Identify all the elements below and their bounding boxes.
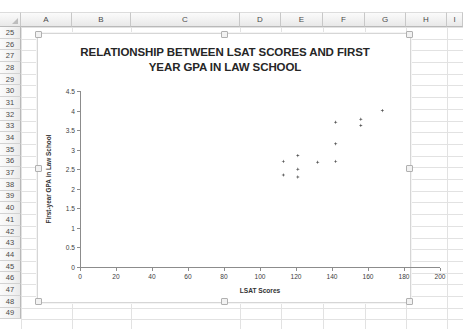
row-header-45[interactable]: 45 xyxy=(0,261,21,273)
row-header-28[interactable]: 28 xyxy=(0,62,21,74)
row-header-42[interactable]: 42 xyxy=(0,226,21,238)
y-tick-label: 0.5 xyxy=(66,244,75,251)
y-tick-label: 3.5 xyxy=(66,127,75,134)
y-tick xyxy=(77,130,80,131)
column-header-e[interactable]: E xyxy=(281,12,323,27)
chart-resize-handle-ne[interactable] xyxy=(406,31,413,38)
column-header-b[interactable]: B xyxy=(72,12,131,27)
y-tick xyxy=(77,189,80,190)
y-tick-label: 4 xyxy=(71,107,75,114)
row-header-29[interactable]: 29 xyxy=(0,74,21,86)
scatter-point[interactable] xyxy=(334,120,338,124)
row-header-46[interactable]: 46 xyxy=(0,272,21,284)
chart-title-line-1: RELATIONSHIP BETWEEN LSAT SCORES AND FIR… xyxy=(64,45,386,60)
row-header-49[interactable]: 49 xyxy=(0,308,21,320)
column-header-i[interactable]: I xyxy=(447,12,463,27)
y-axis-line xyxy=(80,91,81,268)
row-header-25[interactable]: 25 xyxy=(0,27,21,39)
column-header-g[interactable]: G xyxy=(365,12,406,27)
y-tick-label: 4.5 xyxy=(66,88,75,95)
row-header-37[interactable]: 37 xyxy=(0,167,21,179)
row-header-34[interactable]: 34 xyxy=(0,132,21,144)
x-tick-label: 40 xyxy=(148,273,155,280)
y-tick xyxy=(77,228,80,229)
row-header-40[interactable]: 40 xyxy=(0,202,21,214)
chart-plot-area[interactable]: First-year GPA in Law School LSAT Scores… xyxy=(80,91,440,267)
scatter-point[interactable] xyxy=(296,175,300,179)
column-header-a[interactable]: A xyxy=(21,12,72,27)
row-header-44[interactable]: 44 xyxy=(0,249,21,261)
x-tick-label: 180 xyxy=(398,273,409,280)
y-tick xyxy=(77,111,80,112)
y-tick xyxy=(77,247,80,248)
chart-resize-handle-se[interactable] xyxy=(406,298,413,305)
chart-resize-handle-nw[interactable] xyxy=(35,31,42,38)
column-header-d[interactable]: D xyxy=(240,12,281,27)
row-header-38[interactable]: 38 xyxy=(0,179,21,191)
x-tick xyxy=(188,268,189,271)
chart-title-line-2: YEAR GPA IN LAW SCHOOL xyxy=(64,60,386,75)
x-tick xyxy=(116,268,117,271)
scatter-point[interactable] xyxy=(359,123,363,127)
column-header-h[interactable]: H xyxy=(406,12,447,27)
scatter-chart-object[interactable]: RELATIONSHIP BETWEEN LSAT SCORES AND FIR… xyxy=(37,33,411,303)
scatter-point[interactable] xyxy=(281,159,285,163)
row-header-26[interactable]: 26 xyxy=(0,39,21,51)
y-tick-label: 2 xyxy=(71,185,75,192)
chart-resize-handle-sw[interactable] xyxy=(35,298,42,305)
row-header-39[interactable]: 39 xyxy=(0,191,21,203)
scatter-point[interactable] xyxy=(281,173,285,177)
y-tick-label: 1.5 xyxy=(66,205,75,212)
row-header-47[interactable]: 47 xyxy=(0,284,21,296)
row-header-27[interactable]: 27 xyxy=(0,50,21,62)
chart-resize-handle-w[interactable] xyxy=(35,165,42,172)
chart-title[interactable]: RELATIONSHIP BETWEEN LSAT SCORES AND FIR… xyxy=(64,45,386,75)
y-tick xyxy=(77,169,80,170)
x-tick xyxy=(368,268,369,271)
scatter-point[interactable] xyxy=(296,167,300,171)
row-header-35[interactable]: 35 xyxy=(0,144,21,156)
x-tick-label: 200 xyxy=(434,273,445,280)
scatter-point[interactable] xyxy=(296,154,300,158)
y-tick xyxy=(77,150,80,151)
column-header-f[interactable]: F xyxy=(323,12,365,27)
row-header-33[interactable]: 33 xyxy=(0,121,21,133)
x-tick-label: 160 xyxy=(362,273,373,280)
y-tick xyxy=(77,208,80,209)
x-tick xyxy=(152,268,153,271)
x-axis-title: LSAT Scores xyxy=(80,287,440,294)
row-header-32[interactable]: 32 xyxy=(0,109,21,121)
chart-resize-handle-n[interactable] xyxy=(221,31,228,38)
y-axis-title: First-year GPA in Law School xyxy=(45,135,52,224)
y-tick-label: 3 xyxy=(71,146,75,153)
grid-column-line xyxy=(447,27,448,329)
x-tick-label: 20 xyxy=(112,273,119,280)
chart-resize-handle-s[interactable] xyxy=(221,298,228,305)
row-header-30[interactable]: 30 xyxy=(0,85,21,97)
row-header-41[interactable]: 41 xyxy=(0,214,21,226)
x-tick xyxy=(296,268,297,271)
scatter-point[interactable] xyxy=(334,142,338,146)
x-tick xyxy=(260,268,261,271)
row-header-31[interactable]: 31 xyxy=(0,97,21,109)
x-tick-label: 0 xyxy=(78,273,82,280)
x-tick-label: 60 xyxy=(184,273,191,280)
x-tick xyxy=(80,268,81,271)
x-tick xyxy=(332,268,333,271)
x-tick-label: 120 xyxy=(290,273,301,280)
column-header-row: A B C D E F G H I xyxy=(0,12,463,27)
column-header-c[interactable]: C xyxy=(131,12,240,27)
row-header-48[interactable]: 48 xyxy=(0,296,21,308)
select-all-corner[interactable] xyxy=(0,12,21,27)
x-tick-label: 80 xyxy=(220,273,227,280)
scatter-point[interactable] xyxy=(334,159,338,163)
spreadsheet-canvas: A B C D E F G H I 2526272829303132333435… xyxy=(0,0,463,329)
x-tick xyxy=(404,268,405,271)
scatter-point[interactable] xyxy=(316,160,320,164)
scatter-point[interactable] xyxy=(359,117,363,121)
row-header-43[interactable]: 43 xyxy=(0,237,21,249)
row-header-36[interactable]: 36 xyxy=(0,156,21,168)
scatter-point[interactable] xyxy=(380,109,384,113)
grid-column-line xyxy=(21,27,22,329)
x-tick-label: 140 xyxy=(326,273,337,280)
